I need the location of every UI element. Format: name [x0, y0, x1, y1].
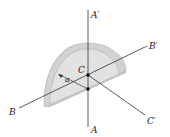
label-a-prime: A′: [90, 10, 100, 20]
half-disk-axes-diagram: A′ A B′ B C′ C a: [0, 0, 170, 137]
axis-c-c-prime: [88, 75, 145, 115]
label-dimension-a: a: [65, 75, 70, 84]
label-b: B: [8, 107, 16, 117]
label-c: C: [78, 65, 85, 75]
label-b-prime: B′: [148, 41, 158, 51]
label-c-prime: C′: [147, 116, 156, 126]
label-a: A: [90, 125, 98, 135]
point-centroid-c: [86, 73, 90, 77]
diagram-canvas: A′ A B′ B C′ C a: [0, 0, 170, 137]
point-center-o: [86, 87, 90, 91]
